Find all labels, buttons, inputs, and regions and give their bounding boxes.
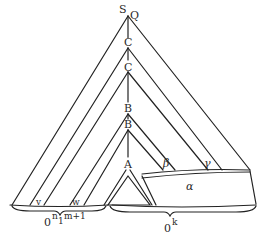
node-s-label: S (119, 3, 127, 16)
node-b1-label: B (124, 102, 132, 115)
left-bracket-label: 0 n 1 m+1 (44, 211, 86, 229)
node-b2-label: B (124, 118, 132, 131)
svg-text:0: 0 (164, 222, 171, 235)
svg-text:0: 0 (44, 216, 51, 229)
beta-label: β (162, 157, 169, 170)
gamma-label: γ (204, 157, 211, 170)
node-a-label: A (123, 158, 133, 171)
left-brace (12, 206, 106, 215)
v-label: v (35, 197, 42, 207)
svg-text:1: 1 (58, 216, 64, 226)
node-c1-label: C (124, 36, 132, 49)
node-q-label: Q (130, 9, 139, 22)
svg-text:k: k (172, 217, 178, 227)
alpha-region (142, 170, 256, 206)
left-branches (12, 16, 128, 205)
derivation-tree-diagram: S Q C C B B A β γ α v w 0 n 1 m+1 0 k (0, 0, 259, 243)
right-bracket-label: 0 k (164, 217, 178, 235)
alpha-label: α (186, 180, 194, 193)
svg-text:m+1: m+1 (64, 211, 86, 221)
node-c2-label: C (124, 61, 132, 74)
right-branches (128, 16, 250, 205)
w-label: w (72, 197, 80, 207)
